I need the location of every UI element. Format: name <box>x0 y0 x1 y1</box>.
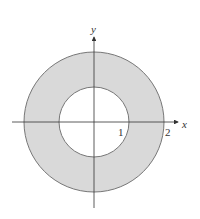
x-axis-label: x <box>181 118 187 130</box>
y-axis-label: y <box>90 23 96 35</box>
tick-label-1: 1 <box>118 126 124 138</box>
annulus-diagram: x y 1 2 <box>0 0 200 219</box>
tick-label-2: 2 <box>165 126 171 138</box>
